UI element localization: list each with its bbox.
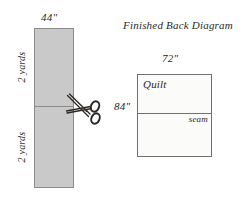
quilt-seam-label: seam: [189, 115, 208, 124]
quilt-width-label: 72": [162, 53, 178, 64]
fabric-top-length-label: 2 yards: [17, 37, 27, 97]
quilt-back-rectangle: Quilt seam: [137, 74, 212, 157]
fabric-width-label: 44": [41, 12, 57, 23]
fabric-cutting-diagram: 44" 2 yards 2 yards: [0, 0, 110, 201]
fabric-bottom-length-label: 2 yards: [17, 117, 27, 177]
quilt-area-label: Quilt: [143, 79, 167, 90]
scissors-icon: [64, 91, 106, 133]
finished-back-diagram: Finished Back Diagram 72" 84" Quilt seam: [110, 0, 241, 201]
diagram-title: Finished Back Diagram: [123, 20, 233, 31]
diagram-canvas: 44" 2 yards 2 yards Finished Back: [0, 0, 241, 201]
quilt-height-label: 84": [114, 101, 130, 112]
